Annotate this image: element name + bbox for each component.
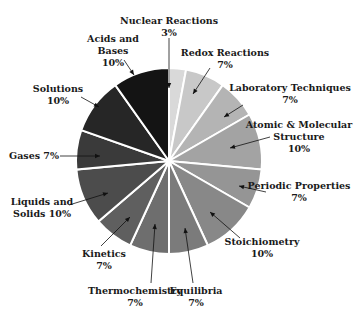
label-text: Laboratory Techniques7% [229,82,351,105]
slice-label: Solutions10% [33,83,99,107]
label-text: Redox Reactions7% [181,47,269,70]
label-text: Solutions10% [33,83,83,106]
label-text: Liquids andSolids 10% [11,196,74,219]
label-text: Acids andBases10% [86,33,139,68]
label-text: Kinetics7% [82,248,126,271]
pie-chart: Nuclear Reactions3%Redox Reactions7%Labo… [0,0,357,322]
pie-slices [76,68,262,254]
slice-label: Acids andBases10% [86,33,139,75]
arrowhead-icon [129,70,134,75]
label-text: Gases 7% [9,150,59,161]
label-text: Stoichiometry10% [225,236,300,259]
label-text: Thermochemistry7% [88,285,183,308]
